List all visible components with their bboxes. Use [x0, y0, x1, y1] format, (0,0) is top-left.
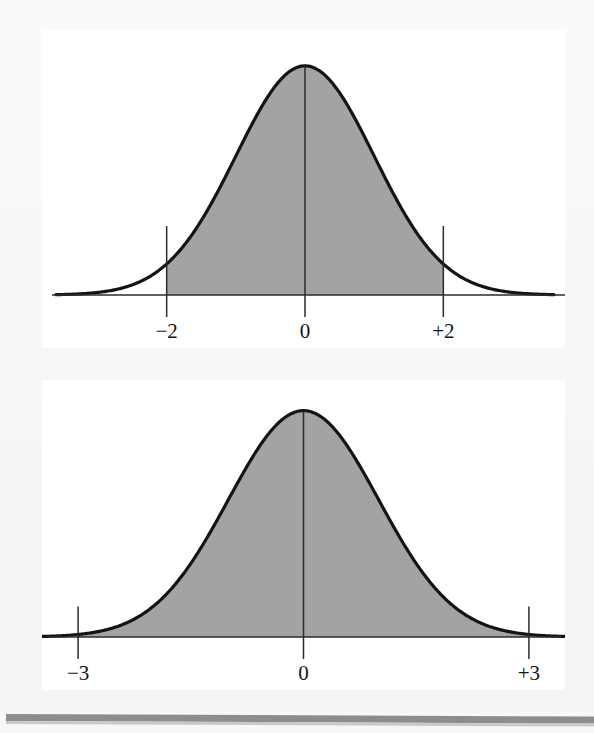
three-sigma-panel: −3 0 +3	[42, 380, 565, 690]
tick-label-left: −3	[67, 661, 89, 685]
tick-label-center: 0	[300, 319, 311, 343]
normal-curve-two-sigma-chart: −2 0 +2	[42, 30, 565, 348]
tick-label-right: +2	[432, 319, 454, 343]
tick-label-right: +3	[518, 661, 540, 685]
tick-label-center: 0	[298, 661, 309, 685]
tick-label-left: −2	[155, 319, 177, 343]
figure-page: −2 0 +2 −3 0 +3	[0, 0, 594, 733]
two-sigma-panel: −2 0 +2	[42, 30, 565, 348]
normal-curve-three-sigma-chart: −3 0 +3	[42, 380, 565, 690]
